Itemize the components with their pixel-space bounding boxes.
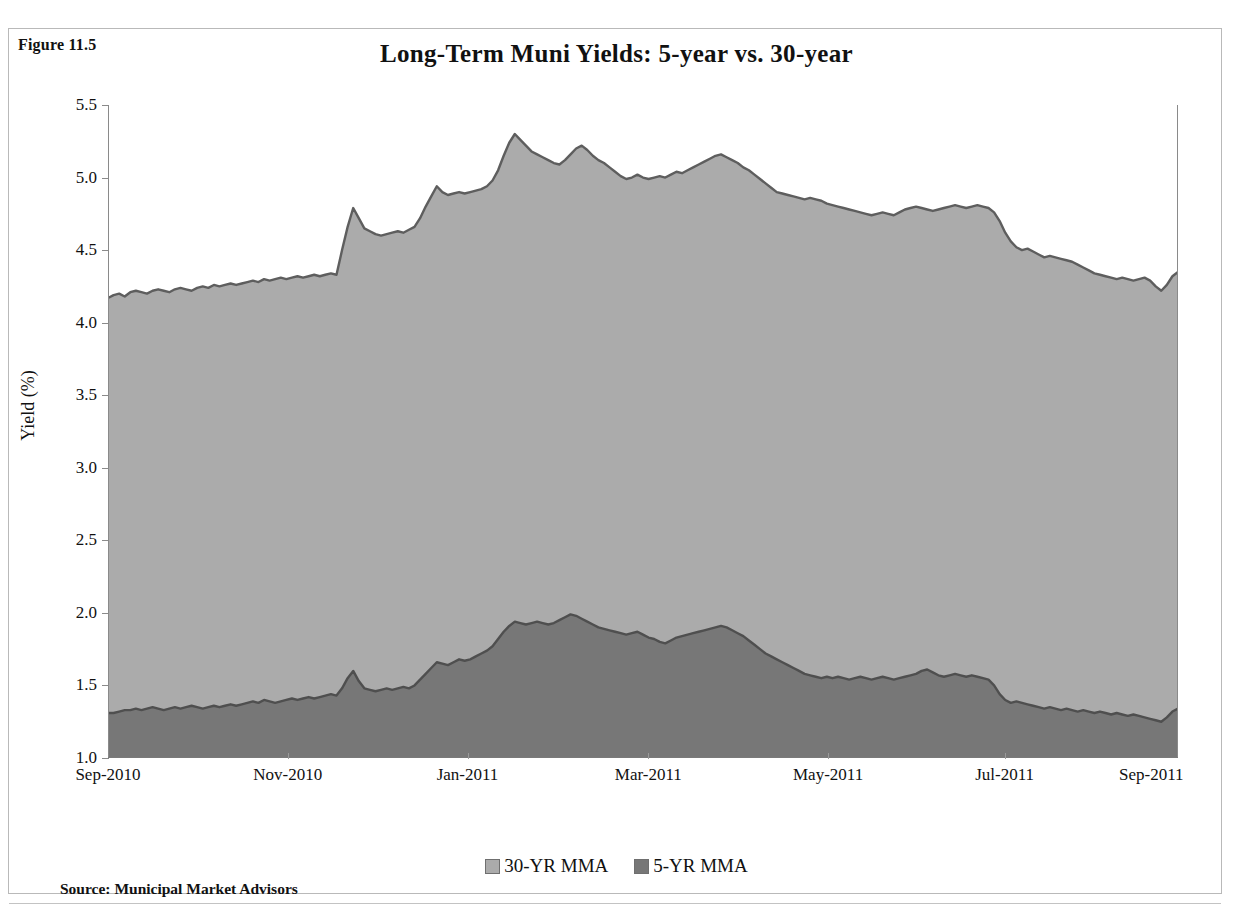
x-tick-label: Jan-2011 — [403, 765, 533, 785]
y-tick-mark — [102, 105, 109, 106]
y-tick-label: 5.0 — [45, 169, 97, 186]
y-tick-mark — [102, 758, 109, 759]
y-tick-label: 5.5 — [45, 96, 97, 113]
y-tick-mark — [102, 685, 109, 686]
y-tick-label: 3.0 — [45, 459, 97, 476]
x-tick-label: Mar-2011 — [583, 765, 713, 785]
y-tick-mark — [102, 540, 109, 541]
legend-swatch-icon — [634, 859, 649, 874]
y-tick-label: 2.0 — [45, 604, 97, 621]
y-tick-label: 2.5 — [45, 531, 97, 548]
x-tick-mark — [288, 753, 289, 759]
x-tick-label: May-2011 — [763, 765, 893, 785]
x-tick-mark — [1005, 753, 1006, 759]
y-axis-label: Yield (%) — [18, 326, 39, 486]
source-note: Source: Municipal Market Advisors — [60, 880, 298, 898]
y-tick-mark — [102, 395, 109, 396]
y-tick-label: 4.0 — [45, 314, 97, 331]
x-tick-label: Jul-2011 — [940, 765, 1070, 785]
y-tick-mark — [102, 178, 109, 179]
y-tick-mark — [102, 468, 109, 469]
legend-label: 5-YR MMA — [653, 855, 747, 877]
x-tick-label: Sep-2011 — [1086, 765, 1216, 785]
y-tick-label: 3.5 — [45, 386, 97, 403]
legend-swatch-icon — [485, 859, 500, 874]
y-tick-label: 1.5 — [45, 676, 97, 693]
x-tick-mark — [648, 753, 649, 759]
legend-item[interactable]: 30-YR MMA — [485, 855, 608, 877]
legend-label: 30-YR MMA — [504, 855, 608, 877]
plot-area — [108, 105, 1178, 758]
y-tick-label: 1.0 — [45, 749, 97, 766]
source-divider — [9, 903, 1221, 904]
legend-item[interactable]: 5-YR MMA — [634, 855, 747, 877]
chart-title: Long-Term Muni Yields: 5-year vs. 30-yea… — [0, 40, 1233, 68]
x-tick-mark — [828, 753, 829, 759]
y-tick-mark — [102, 613, 109, 614]
area-chart-svg — [108, 105, 1178, 758]
x-tick-mark — [468, 753, 469, 759]
y-tick-label: 4.5 — [45, 241, 97, 258]
y-tick-mark — [102, 250, 109, 251]
x-tick-label: Sep-2010 — [43, 765, 173, 785]
x-tick-label: Nov-2010 — [223, 765, 353, 785]
chart-legend: 30-YR MMA5-YR MMA — [0, 855, 1233, 877]
y-tick-mark — [102, 323, 109, 324]
